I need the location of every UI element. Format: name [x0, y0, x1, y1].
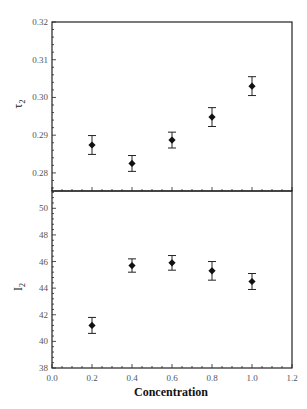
x-axis: 0.00.20.40.60.81.01.2 — [46, 373, 297, 383]
top-y-axis-title-sub: 2 — [18, 100, 27, 104]
plot-frame — [52, 22, 292, 191]
y-tick-label: 38 — [39, 363, 49, 373]
top-y-axis-title: τ2 — [11, 100, 27, 109]
y-tick-label: 0.30 — [32, 92, 48, 102]
svg-text:τ2: τ2 — [11, 100, 27, 109]
plot-frame — [52, 191, 292, 368]
data-point — [208, 262, 216, 281]
chart-figure: 0.280.290.300.310.32 38404244464850 0.00… — [0, 0, 307, 409]
data-point — [168, 132, 176, 148]
y-tick-label: 0.29 — [32, 130, 48, 140]
y-tick-label: 40 — [39, 336, 49, 346]
x-tick-label: 0.0 — [46, 373, 58, 383]
data-point — [168, 256, 176, 271]
y-tick-label: 0.32 — [32, 17, 48, 27]
x-tick-label: 0.8 — [206, 373, 218, 383]
x-tick-label: 0.6 — [166, 373, 178, 383]
data-point — [248, 77, 256, 96]
data-point — [248, 274, 256, 290]
y-tick-label: 44 — [39, 283, 49, 293]
top-panel-plot: 0.280.290.300.310.32 — [32, 17, 292, 191]
x-tick-label: 0.4 — [126, 373, 138, 383]
data-point — [88, 317, 96, 333]
data-point — [88, 136, 96, 155]
bottom-y-axis-title: I2 — [11, 283, 27, 291]
svg-text:I2: I2 — [11, 283, 27, 291]
y-tick-label: 42 — [39, 310, 48, 320]
bottom-panel-plot: 38404244464850 — [39, 191, 292, 373]
data-point — [128, 156, 136, 172]
x-tick-label: 1.0 — [246, 373, 258, 383]
y-tick-label: 0.28 — [32, 168, 48, 178]
data-point — [208, 108, 216, 127]
y-tick-label: 0.31 — [32, 55, 48, 65]
x-axis-title: Concentration — [134, 385, 208, 399]
data-point — [128, 259, 136, 272]
y-tick-label: 48 — [39, 230, 49, 240]
y-tick-label: 46 — [39, 257, 49, 267]
x-tick-label: 1.2 — [286, 373, 297, 383]
bottom-y-axis-title-sub: 2 — [18, 283, 27, 287]
x-tick-label: 0.2 — [86, 373, 97, 383]
y-tick-label: 50 — [39, 203, 49, 213]
